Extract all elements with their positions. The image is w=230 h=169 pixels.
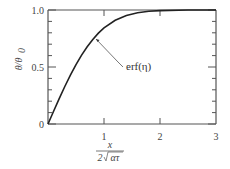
x-label-numerator: x <box>107 139 113 150</box>
x-label-radicand: ατ <box>111 152 120 163</box>
erf-chart: 1.0 0.5 0 1 2 3 θ/θ 0 x 2 ατ erf(η) <box>0 0 230 169</box>
x-tick-label-1: 1 <box>102 131 107 142</box>
x-tick-label-3: 3 <box>214 131 219 142</box>
svg-text:θ/θ: θ/θ <box>13 58 24 71</box>
annotation-leader-end <box>118 62 123 67</box>
x-axis-label: x 2 ατ <box>96 139 124 163</box>
y-tick-label-0: 0 <box>39 119 44 130</box>
y-tick-label-1: 1.0 <box>32 5 45 16</box>
x-tick-label-2: 2 <box>158 131 163 142</box>
annotation-label: erf(η) <box>126 60 152 73</box>
y-axis-label: θ/θ 0 <box>13 48 27 70</box>
curve-annotation: erf(η) <box>96 39 152 73</box>
x-label-coef: 2 <box>98 152 103 163</box>
y-tick-label-05: 0.5 <box>32 62 45 73</box>
annotation-leader <box>96 39 118 62</box>
svg-text:0: 0 <box>16 48 27 53</box>
